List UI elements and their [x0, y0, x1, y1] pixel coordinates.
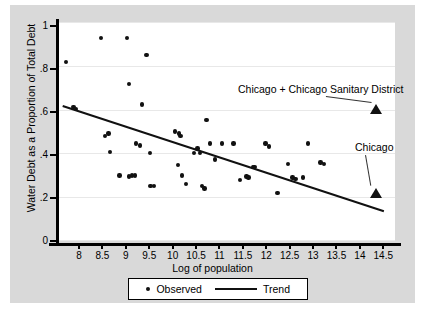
legend-item-trend: Trend	[215, 283, 290, 295]
x-axis-tick	[242, 243, 244, 249]
y-axis-tick	[50, 111, 56, 113]
gridline	[58, 66, 395, 67]
x-axis-tick	[125, 243, 127, 249]
annotation-label: Chicago	[355, 141, 394, 153]
legend-item-observed: Observed	[146, 283, 202, 295]
x-axis-tick	[148, 243, 150, 249]
x-axis-tick	[265, 243, 267, 249]
x-axis-tick	[335, 243, 337, 249]
data-point	[267, 144, 271, 148]
annotation-label: Chicago + Chicago Sanitary District	[238, 83, 403, 95]
x-axis-label: Log of population	[0, 262, 425, 274]
data-point	[133, 173, 137, 177]
x-axis-tick	[195, 243, 197, 249]
y-axis-label: Water Debt as a Proportion of Total Debt	[25, 8, 37, 228]
figure: 0.2.4.6.81 88.599.51010.51111.51212.5131…	[0, 0, 425, 317]
y-axis-tick-label: 0	[26, 236, 48, 246]
gridline	[58, 110, 395, 111]
data-point	[231, 141, 235, 145]
data-point	[301, 175, 305, 179]
trend-line-icon	[215, 288, 257, 290]
y-axis-tick	[50, 68, 56, 70]
x-axis-tick	[78, 243, 80, 249]
data-point	[322, 162, 326, 166]
legend: Observed Trend	[128, 278, 308, 300]
data-point	[220, 141, 224, 145]
y-axis-tick	[50, 154, 56, 156]
x-axis-tick	[218, 243, 220, 249]
y-axis-tick	[50, 240, 56, 242]
data-point	[64, 60, 68, 64]
data-point	[246, 175, 250, 179]
legend-label-observed: Observed	[156, 283, 202, 295]
x-axis-tick	[172, 243, 174, 249]
data-point	[213, 157, 217, 161]
x-axis-tick	[289, 243, 291, 249]
data-point-triangle	[370, 104, 382, 114]
data-point	[208, 141, 212, 145]
x-axis-tick	[382, 243, 384, 249]
x-axis-tick	[359, 243, 361, 249]
y-axis-tick	[50, 25, 56, 27]
x-axis-tick-label: 14.5	[366, 250, 400, 261]
x-axis-tick	[312, 243, 314, 249]
data-point	[275, 191, 279, 195]
gridline	[58, 22, 395, 23]
y-axis-tick	[50, 197, 56, 199]
data-point	[204, 118, 208, 122]
data-point	[138, 143, 142, 147]
data-point	[306, 141, 310, 145]
data-point	[176, 163, 180, 167]
gridline	[58, 240, 395, 241]
legend-label-trend: Trend	[263, 283, 290, 295]
data-point	[202, 186, 206, 190]
data-point	[106, 131, 110, 135]
data-point	[178, 134, 182, 138]
x-axis-tick	[101, 243, 103, 249]
observed-marker-icon	[146, 287, 150, 291]
data-point	[180, 173, 184, 177]
data-point-triangle	[370, 188, 382, 198]
data-point	[117, 173, 121, 177]
y-axis-line	[56, 19, 59, 245]
